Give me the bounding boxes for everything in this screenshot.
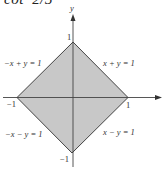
abs-value-diamond-diagram: y 1 −1 1 −1 x + y = 1 −x + y = 1 −x − y … — [0, 0, 164, 169]
edge-label-bottom-right: x − y = 1 — [102, 127, 135, 137]
edge-label-bottom-left: −x − y = 1 — [5, 129, 43, 139]
y-axis-arrow-icon — [71, 14, 76, 21]
tick-y-pos: 1 — [67, 32, 71, 42]
tick-x-neg: −1 — [7, 99, 16, 109]
edge-label-top-right: x + y = 1 — [102, 58, 135, 68]
x-axis-arrow-icon — [155, 95, 162, 100]
edge-label-top-left: −x + y = 1 — [4, 58, 42, 68]
tick-y-neg: −1 — [60, 154, 69, 164]
y-axis-label: y — [69, 3, 74, 13]
tick-x-pos: 1 — [126, 100, 130, 110]
